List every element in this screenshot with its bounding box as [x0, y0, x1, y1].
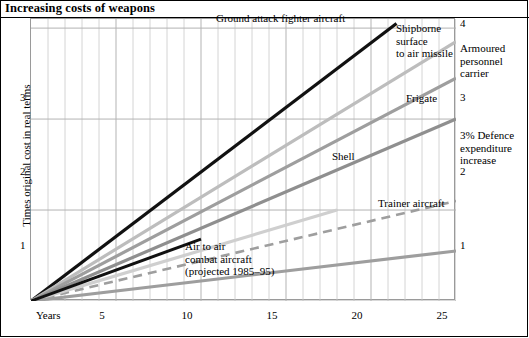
x-tick-15: 15	[260, 310, 284, 321]
y-tick-left-3: 3	[20, 92, 26, 103]
y-tick-left-1: 1	[20, 240, 26, 251]
x-axis-title: Years	[36, 310, 84, 321]
y-tick-left-2: 2	[20, 166, 26, 177]
y-tick-right-2: 2	[460, 166, 466, 177]
x-tick-25: 25	[430, 310, 454, 321]
label-shipborne-surface-to-air-missile: Shipborne surface to air missile	[396, 22, 453, 60]
label-air-to-air-combat-aircraft: Air to air combat aircraft (projected 19…	[185, 240, 275, 278]
label-frigate: Frigate	[406, 92, 437, 105]
x-tick-5: 5	[90, 310, 114, 321]
x-tick-20: 20	[345, 310, 369, 321]
y-tick-right-3: 3	[460, 92, 466, 103]
chart-root: Increasing costs of weapons Times origin…	[0, 0, 529, 338]
label-trainer-aircraft: Trainer aircraft	[378, 197, 444, 210]
label-defence-expenditure-increase: 3% Defence expenditure increase	[460, 129, 514, 167]
label-ground-attack-fighter-aircraft: Ground attack fighter aircraft	[216, 12, 345, 25]
y-tick-right-4: 4	[460, 18, 466, 29]
label-armoured-personnel-carrier: Armoured personnel carrier	[460, 42, 505, 80]
x-tick-10: 10	[175, 310, 199, 321]
label-shell: Shell	[332, 150, 355, 163]
y-tick-right-1: 1	[460, 240, 466, 251]
